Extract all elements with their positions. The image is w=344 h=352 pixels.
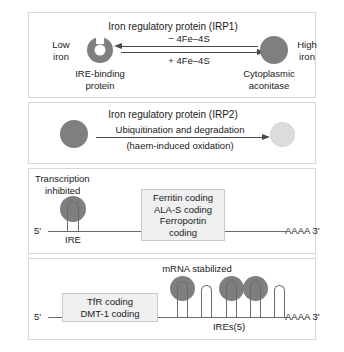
mrna-backbone-left (48, 231, 142, 232)
ferritin-coding-box: Ferritin coding ALA-S coding Ferroportin… (141, 189, 225, 241)
plus-4fe4s-label: + 4Fe–4S (168, 55, 209, 67)
haem-oxidation-label: (haem-induced oxidation) (126, 140, 233, 152)
stem-loop-3-icon (226, 281, 237, 318)
stem-loop-1-icon (177, 281, 188, 318)
arrow-line-to-low-iron (121, 46, 258, 47)
stem-loop-4-icon (250, 281, 261, 318)
panel-tfr-mrna: mRNA stabilized 5' TfR coding DMT-1 codi… (28, 258, 316, 340)
arrowhead-left-icon (114, 43, 122, 49)
cytoplasmic-aconitase-circle-icon (260, 36, 288, 64)
minus-4fe4s-label: − 4Fe–4S (168, 33, 209, 45)
arrow-line-to-high-iron (121, 52, 258, 53)
mrna-backbone-tfr-mid (158, 317, 168, 318)
mrna-backbone-right (224, 231, 286, 232)
three-prime-label-tfr: AAAA 3' (285, 311, 320, 323)
mrna-stabilized-label: mRNA stabilized (162, 263, 232, 275)
low-iron-label-line2: iron (53, 51, 69, 63)
panel-irp1: Iron regulatory protein (IRP1) Low iron … (28, 12, 316, 98)
ring-notch (96, 36, 104, 44)
transcription-inhibited-line2: inhibited (45, 185, 80, 197)
panel-ferritin-mrna: Transcription inhibited IRE 5' Ferritin … (28, 168, 316, 254)
ubiquitination-label: Ubiquitination and degradation (116, 124, 245, 136)
three-prime-label: AAAA 3' (285, 225, 320, 237)
transcription-inhibited-line1: Transcription (35, 173, 90, 185)
coding-line-ferroportin: Ferroportin coding (148, 215, 218, 238)
cytoplasmic-aconitase-label-line2: aconitase (249, 80, 290, 92)
irp1-heading: Iron regulatory protein (IRP1) (108, 21, 238, 33)
irp2-degraded-circle-icon (270, 122, 295, 147)
ire-binding-protein-label-line1: IRE-binding (75, 68, 125, 80)
high-iron-label-line2: iron (299, 51, 315, 63)
degradation-arrowhead-icon (262, 134, 270, 140)
ire-stem-loop-icon (67, 201, 79, 232)
degradation-arrow-line (96, 137, 263, 138)
tfr-coding-box: TfR coding DMT-1 coding (62, 293, 158, 322)
panel-irp2: Iron regulatory protein (IRP2) Ubiquitin… (28, 102, 316, 164)
low-iron-label-line1: Low (52, 39, 69, 51)
five-prime-label: 5' (34, 225, 41, 237)
stem-loop-2-icon (201, 285, 212, 318)
ire-binding-protein-ring-icon (87, 37, 113, 63)
ire-label: IRE (65, 234, 81, 246)
coding-line-alas: ALA-S coding (148, 204, 218, 216)
stem-loop-5-icon (274, 285, 285, 318)
cytoplasmic-aconitase-label-line1: Cytoplasmic (243, 68, 295, 80)
mrna-backbone-tfr-left (48, 317, 62, 318)
five-prime-label-tfr: 5' (34, 311, 41, 323)
ires-count-label: IREs(5) (213, 321, 245, 333)
high-iron-label-line1: High (297, 39, 317, 51)
irp-regulation-figure: Iron regulatory protein (IRP1) Low iron … (0, 0, 344, 352)
coding-line-dmt1: DMT-1 coding (69, 308, 151, 320)
ire-binding-protein-label-line2: protein (85, 80, 114, 92)
coding-line-ferritin: Ferritin coding (148, 192, 218, 204)
irp2-intact-circle-icon (60, 120, 88, 148)
irp2-heading: Iron regulatory protein (IRP2) (108, 109, 238, 121)
coding-line-tfr: TfR coding (69, 296, 151, 308)
